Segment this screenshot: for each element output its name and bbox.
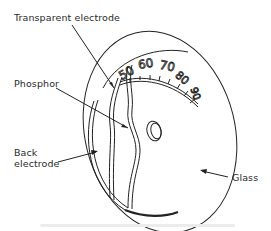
leader-transparent-electrode <box>72 25 114 88</box>
label-glass: Glass <box>232 172 258 183</box>
label-back-electrode-line1: Back <box>14 147 37 158</box>
scale-70: 70 <box>158 58 176 75</box>
label-phosphor: Phosphor <box>14 78 59 89</box>
scale-90: 90 <box>188 86 203 102</box>
glass-disc <box>63 15 258 231</box>
label-transparent-electrode: Transparent electrode <box>14 12 120 23</box>
label-back-electrode-line2: electrode <box>14 158 60 169</box>
dial-diagram: 50 60 70 80 90 <box>0 0 271 231</box>
scale-60: 60 <box>137 56 154 72</box>
figure-caption-faint <box>40 224 235 227</box>
scale-80: 80 <box>172 69 191 88</box>
scale-50: 50 <box>116 63 136 83</box>
